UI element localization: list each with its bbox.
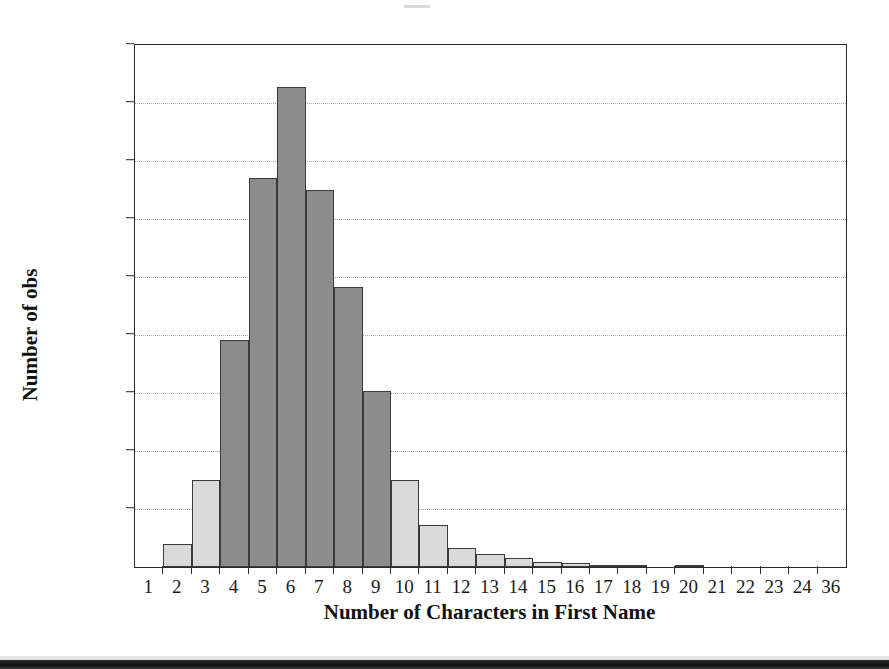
x-tick-label-5: 5 [257,576,267,598]
x-tick-label-10: 10 [395,576,414,598]
bar-16 [562,563,590,567]
x-tick-label-36: 36 [821,576,840,598]
bar-11 [419,525,447,567]
x-tick-mark-16 [589,566,590,574]
scan-artifact-top [404,5,430,8]
plot-area [134,44,847,568]
y-tick-mark-5000 [126,275,134,276]
y-axis: 0100020003000400050006000700080009000 [0,0,134,669]
x-tick-mark-1 [162,566,163,574]
bar-18 [618,565,646,567]
x-tick-label-22: 22 [736,576,755,598]
x-tick-mark-21 [731,566,732,574]
x-tick-mark-5 [276,566,277,574]
x-tick-label-7: 7 [314,576,324,598]
x-tick-mark-6 [305,566,306,574]
bar-10 [391,480,419,567]
bar-13 [476,554,504,567]
x-tick-mark-14 [532,566,533,574]
x-tick-mark-17 [617,566,618,574]
x-tick-label-9: 9 [371,576,381,598]
x-tick-mark-18 [646,566,647,574]
x-tick-mark-19 [674,566,675,574]
bar-7 [306,190,334,567]
bar-4 [220,340,248,567]
x-tick-mark-11 [447,566,448,574]
y-tick-mark-6000 [126,217,134,218]
x-tick-label-13: 13 [480,576,499,598]
y-tick-mark-9000 [126,43,134,44]
x-tick-mark-20 [703,566,704,574]
x-tick-label-11: 11 [423,576,441,598]
bar-14 [505,558,533,567]
x-tick-label-14: 14 [508,576,527,598]
bar-2 [163,544,191,567]
x-tick-label-15: 15 [537,576,556,598]
x-tick-label-12: 12 [452,576,471,598]
x-tick-label-19: 19 [651,576,670,598]
x-tick-mark-3 [219,566,220,574]
y-tick-mark-3000 [126,391,134,392]
x-tick-label-18: 18 [622,576,641,598]
bar-15 [533,562,561,567]
y-tick-mark-2000 [126,449,134,450]
y-tick-mark-7000 [126,159,134,160]
bar-17 [590,565,618,567]
bar-5 [249,178,277,567]
x-tick-mark-22 [760,566,761,574]
histogram-figure: Number of obs 01000200030004000500060007… [0,0,889,669]
bar-20 [675,565,703,567]
page-edge-shadow [0,660,889,669]
x-tick-label-17: 17 [594,576,613,598]
x-tick-label-3: 3 [200,576,210,598]
x-tick-mark-15 [561,566,562,574]
x-axis-title: Number of Characters in First Name [134,600,845,625]
x-tick-mark-2 [191,566,192,574]
x-tick-label-23: 23 [764,576,783,598]
bar-6 [277,87,305,567]
y-tick-mark-1000 [126,507,134,508]
x-tick-label-16: 16 [565,576,584,598]
x-tick-mark-10 [418,566,419,574]
bar-series [135,45,846,567]
x-tick-label-6: 6 [286,576,296,598]
y-tick-mark-4000 [126,333,134,334]
x-tick-label-8: 8 [343,576,353,598]
bar-8 [334,287,362,567]
x-tick-mark-9 [390,566,391,574]
x-tick-label-1: 1 [143,576,153,598]
x-tick-mark-24 [817,566,818,574]
y-tick-mark-8000 [126,101,134,102]
x-tick-mark-12 [475,566,476,574]
x-tick-mark-23 [788,566,789,574]
bar-12 [448,548,476,567]
x-tick-label-24: 24 [793,576,812,598]
bar-9 [363,391,391,567]
x-tick-label-21: 21 [708,576,727,598]
x-tick-label-20: 20 [679,576,698,598]
x-tick-mark-8 [362,566,363,574]
x-tick-mark-13 [504,566,505,574]
x-tick-label-4: 4 [229,576,239,598]
x-tick-label-2: 2 [172,576,182,598]
bar-3 [192,480,220,567]
x-tick-mark-7 [333,566,334,574]
x-tick-mark-4 [248,566,249,574]
